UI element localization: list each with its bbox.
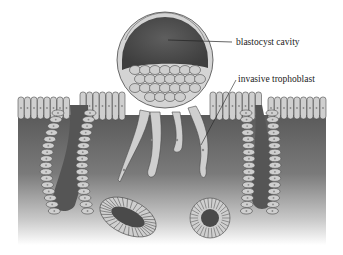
inner-cell-mass-cell	[155, 75, 166, 84]
uterine-gland-right	[240, 105, 281, 214]
inner-cell-mass-cell	[135, 75, 146, 84]
implantation-diagram: blastocyst cavity invasive trophoblast	[0, 0, 343, 255]
inner-cell-mass-cell	[145, 93, 156, 102]
inner-cell-mass-cell	[165, 75, 176, 84]
label-blastocyst-cavity: blastocyst cavity	[236, 37, 300, 47]
inner-cell-mass-cell	[180, 84, 191, 93]
gland-cross-section-round	[190, 198, 230, 238]
surface-epithelium-right	[268, 97, 326, 119]
inner-cell-mass-cell	[170, 66, 181, 75]
inner-cell-mass-cell	[140, 84, 151, 93]
inner-cell-mass-cell	[150, 66, 161, 75]
inner-cell-mass-cell	[145, 75, 156, 84]
inner-cell-mass-cell	[155, 93, 166, 102]
inner-cell-mass-cell	[140, 66, 151, 75]
inner-cell-mass-cell	[180, 66, 191, 75]
inner-cell-mass-cell	[190, 84, 201, 93]
inner-cell-mass-cell	[195, 75, 206, 84]
inner-cell-mass-cell	[160, 84, 171, 93]
inner-cell-mass-cell	[150, 84, 161, 93]
blastocyst	[117, 12, 213, 108]
inner-cell-mass-cell	[160, 66, 171, 75]
label-invasive-trophoblast: invasive trophoblast	[238, 74, 315, 84]
inner-cell-mass-cell	[165, 93, 176, 102]
inner-cell-mass-cell	[185, 75, 196, 84]
inner-cell-mass-cell	[130, 66, 141, 75]
inner-cell-mass-cell	[175, 93, 186, 102]
inner-cell-mass-cell	[190, 66, 201, 75]
inner-cell-mass-cell	[130, 84, 141, 93]
inner-cell-mass-cell	[175, 75, 186, 84]
inner-cell-mass-cell	[170, 84, 181, 93]
